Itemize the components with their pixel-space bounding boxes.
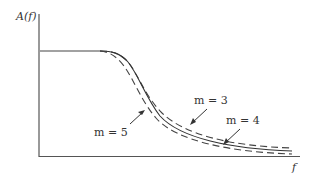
y-axis-label: A(f) <box>15 10 37 23</box>
label-m4: m = 4 <box>226 114 260 127</box>
label-m5: m = 5 <box>94 126 128 139</box>
arrowhead-m3 <box>190 118 196 125</box>
chart: A(f) f m = 3 m = 4 m = 5 <box>0 0 310 178</box>
x-axis-label: f <box>291 161 298 174</box>
label-m3: m = 3 <box>194 94 228 107</box>
arrowhead-m5 <box>138 110 145 115</box>
